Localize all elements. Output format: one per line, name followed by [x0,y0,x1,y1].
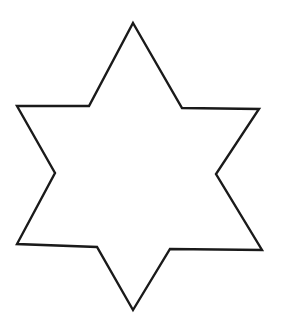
star-outline [17,23,262,310]
six-pointed-star-icon [0,0,281,333]
diagram-canvas [0,0,281,333]
